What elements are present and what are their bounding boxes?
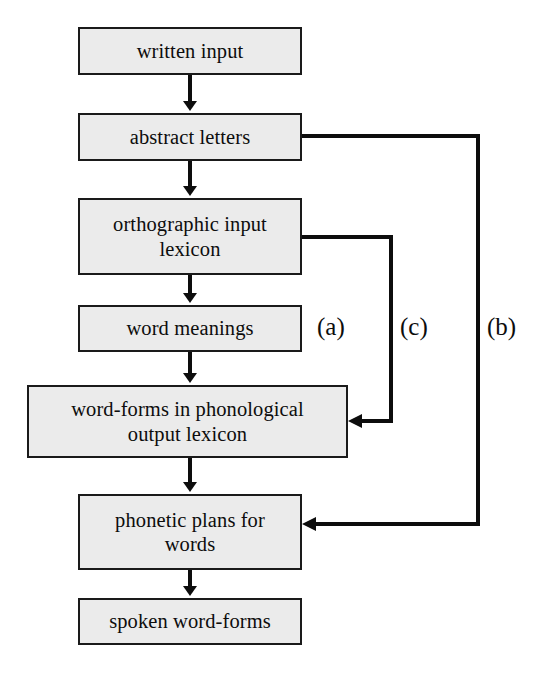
node-word-forms-phonological-output-lexicon[interactable]: word-forms in phonological output lexico…	[27, 385, 348, 458]
route-label-c: (c)	[400, 314, 428, 339]
node-written-input[interactable]: written input	[78, 27, 302, 75]
node-phonetic-plans-for-words-label: phonetic plans for words	[115, 508, 265, 556]
node-abstract-letters-label: abstract letters	[130, 125, 251, 149]
node-abstract-letters[interactable]: abstract letters	[78, 113, 302, 161]
node-phonetic-plans-for-words[interactable]: phonetic plans for words	[78, 494, 302, 570]
flowchart-diagram: written input abstract letters orthograp…	[0, 0, 552, 677]
node-word-meanings[interactable]: word meanings	[78, 305, 302, 352]
node-word-forms-phonological-output-lexicon-label: word-forms in phonological output lexico…	[71, 397, 304, 445]
node-written-input-label: written input	[137, 39, 244, 63]
node-spoken-word-forms-label: spoken word-forms	[109, 609, 271, 633]
route-label-b: (b)	[487, 314, 516, 339]
node-orthographic-input-lexicon-label: orthographic input lexicon	[113, 212, 267, 260]
node-orthographic-input-lexicon[interactable]: orthographic input lexicon	[78, 198, 302, 275]
node-word-meanings-label: word meanings	[126, 316, 253, 340]
node-spoken-word-forms[interactable]: spoken word-forms	[78, 598, 302, 645]
route-label-a: (a)	[317, 314, 345, 339]
